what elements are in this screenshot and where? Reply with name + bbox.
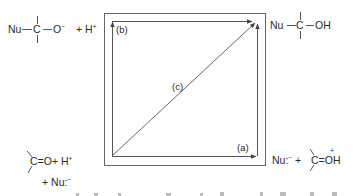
oxonium-bottom-right: C=OH [311, 154, 340, 166]
carbon-top-right: C [296, 19, 304, 31]
path-c-arrow [112, 23, 255, 156]
path-c-label: (c) [172, 81, 183, 92]
oxonium-charge: + [330, 145, 334, 157]
hydroxyl-top-right: OH [315, 19, 331, 31]
oxide-top-left: O− [53, 23, 65, 35]
species-bottom-left: C=O+ H+ [30, 155, 72, 167]
nucleophile-label: Nu [8, 23, 21, 35]
species-top-left: Nu [8, 23, 21, 35]
path-a-label: (a) [237, 142, 249, 153]
proton-top-left: + H+ [76, 23, 96, 35]
path-b-label: (b) [116, 24, 128, 35]
path-a-arrows [112, 24, 258, 157]
cropped-caption [70, 192, 357, 196]
species-bottom-right: Nu:− + [272, 154, 301, 166]
species-top-right: Nu [270, 19, 283, 31]
nucleophile-bottom-left: + Nu:− [42, 176, 71, 188]
carbon-top-left: C [33, 23, 41, 35]
bond-lines [22, 12, 314, 173]
